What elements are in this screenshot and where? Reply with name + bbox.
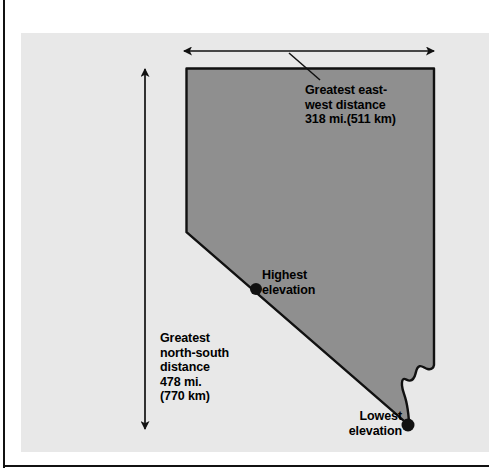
lowest-elevation-marker-icon	[402, 419, 415, 432]
highest-elevation-label: Highest elevation	[262, 268, 315, 297]
east-west-distance-label: Greatest east- west distance 318 mi.(511…	[305, 83, 396, 127]
highest-elevation-marker-icon	[250, 283, 262, 295]
north-south-distance-label: Greatest north-south distance 478 mi. (7…	[160, 331, 229, 404]
figure-container: Greatest east- west distance 318 mi.(511…	[0, 0, 489, 475]
nevada-map-graphic	[0, 0, 489, 475]
lowest-elevation-label: Lowest elevation	[312, 409, 402, 438]
